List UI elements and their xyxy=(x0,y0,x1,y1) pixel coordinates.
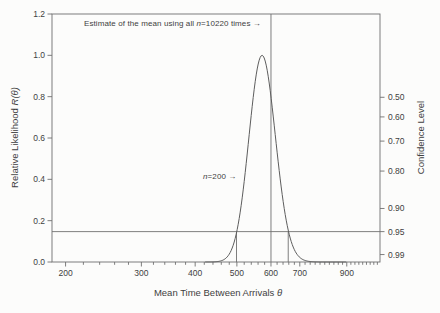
y-left-tick-label: 0.6 xyxy=(33,133,45,143)
y-axis-title-left: Relative Likelihood R(θ) xyxy=(9,78,20,198)
y-right-tick-label: 0.50 xyxy=(388,92,405,102)
y-left-tick-label: 1.2 xyxy=(33,9,45,19)
y-right-tick-label: 0.99 xyxy=(388,250,405,260)
y-right-tick-label: 0.70 xyxy=(388,136,405,146)
y-left-tick-label: 0.8 xyxy=(33,92,45,102)
x-axis-title: Mean Time Between Arrivals θ xyxy=(90,287,346,298)
plot-frame xyxy=(52,14,380,262)
annotation-n200-suffix: =200 → xyxy=(208,172,237,181)
y-axis-title-right: Confidence Level xyxy=(415,86,426,190)
relative-likelihood-chart: 2003004005006007009000.00.20.40.60.81.01… xyxy=(0,0,440,313)
x-tick-label: 900 xyxy=(340,268,354,278)
y-left-tick-label: 0.2 xyxy=(33,216,45,226)
likelihood-curve xyxy=(205,55,346,262)
x-tick-label: 300 xyxy=(134,268,148,278)
y-right-tick-label: 0.95 xyxy=(388,227,405,237)
x-axis-title-text: Mean Time Between Arrivals xyxy=(154,287,277,298)
y-left-tick-label: 0.4 xyxy=(33,174,45,184)
annotation-mean-estimate-all-suffix: =10220 times → xyxy=(201,19,261,28)
x-tick-label: 500 xyxy=(230,268,244,278)
annotation-n200: n=200 → xyxy=(203,172,236,181)
x-axis-title-var: θ xyxy=(277,287,282,298)
y-left-tick-label: 1.0 xyxy=(33,50,45,60)
x-tick-label: 200 xyxy=(58,268,72,278)
y-right-tick-label: 0.80 xyxy=(388,166,405,176)
y-right-tick-label: 0.60 xyxy=(388,112,405,122)
y-right-tick-label: 0.90 xyxy=(388,203,405,213)
y-axis-title-left-var: R(θ) xyxy=(9,87,20,105)
x-tick-label: 600 xyxy=(264,268,278,278)
y-left-tick-label: 0.0 xyxy=(33,257,45,267)
x-tick-label: 700 xyxy=(293,268,307,278)
x-tick-label: 400 xyxy=(188,268,202,278)
plot-canvas: 2003004005006007009000.00.20.40.60.81.01… xyxy=(0,0,440,313)
annotation-mean-estimate-all-prefix: Estimate of the mean using all xyxy=(84,19,197,28)
y-axis-title-left-text: Relative Likelihood xyxy=(9,105,20,187)
annotation-mean-estimate-all: Estimate of the mean using all n=10220 t… xyxy=(84,19,261,28)
